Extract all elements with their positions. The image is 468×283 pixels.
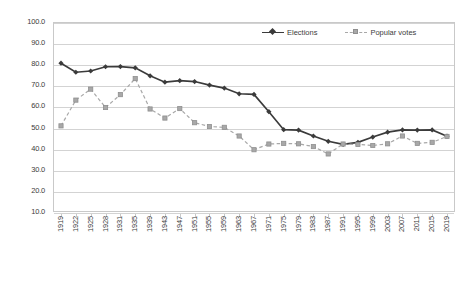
square-marker-icon [237, 134, 241, 138]
square-marker-icon [356, 142, 360, 146]
square-marker-icon [59, 124, 63, 128]
square-marker-icon [311, 144, 315, 148]
square-marker-icon [178, 106, 182, 110]
diamond-marker-icon [296, 127, 301, 132]
square-marker-icon [252, 148, 256, 152]
square-marker-icon [118, 93, 122, 97]
square-marker-icon [222, 125, 226, 129]
chart-legend: Elections Popular votes [262, 25, 416, 39]
legend-line-dashed-icon [345, 28, 367, 36]
diamond-marker-icon [430, 127, 435, 132]
square-marker-icon [341, 142, 345, 146]
diamond-marker-icon [222, 85, 227, 90]
square-marker-icon [207, 124, 211, 128]
series-popular-votes [59, 76, 449, 156]
diamond-marker-icon [162, 80, 167, 85]
diamond-marker-icon [118, 64, 123, 69]
square-marker-icon [74, 98, 78, 102]
legend-entry-popular-votes: Popular votes [345, 28, 416, 37]
square-marker-icon [386, 142, 390, 146]
square-marker-icon [415, 141, 419, 145]
series-layer [0, 0, 468, 283]
diamond-marker-icon [269, 28, 276, 35]
square-marker-icon [430, 140, 434, 144]
diamond-marker-icon [400, 127, 405, 132]
square-marker-icon [326, 152, 330, 156]
square-marker-icon [103, 105, 107, 109]
diamond-marker-icon [237, 91, 242, 96]
diamond-marker-icon [385, 130, 390, 135]
legend-label: Popular votes [370, 28, 416, 37]
diamond-marker-icon [103, 64, 108, 69]
square-marker-icon [282, 141, 286, 145]
diamond-marker-icon [415, 127, 420, 132]
diamond-marker-icon [192, 79, 197, 84]
square-marker-icon [89, 87, 93, 91]
square-marker-icon [193, 121, 197, 125]
square-marker-icon [296, 142, 300, 146]
diamond-marker-icon [311, 133, 316, 138]
square-marker-icon [445, 134, 449, 138]
legend-label: Elections [287, 28, 317, 37]
square-marker-icon [148, 107, 152, 111]
diamond-marker-icon [326, 139, 331, 144]
square-marker-icon [163, 116, 167, 120]
square-marker-icon [371, 143, 375, 147]
legend-entry-elections: Elections [262, 28, 317, 37]
square-marker-icon [267, 142, 271, 146]
series-elections [58, 61, 449, 147]
square-marker-icon [400, 134, 404, 138]
diamond-marker-icon [207, 83, 212, 88]
square-marker-icon [133, 76, 137, 80]
diamond-marker-icon [370, 134, 375, 139]
square-marker-icon [353, 29, 358, 34]
legend-line-solid-icon [262, 28, 284, 36]
diamond-marker-icon [88, 68, 93, 73]
line-chart: 100.090.080.070.060.050.040.030.020.010.… [0, 0, 468, 283]
diamond-marker-icon [177, 78, 182, 83]
